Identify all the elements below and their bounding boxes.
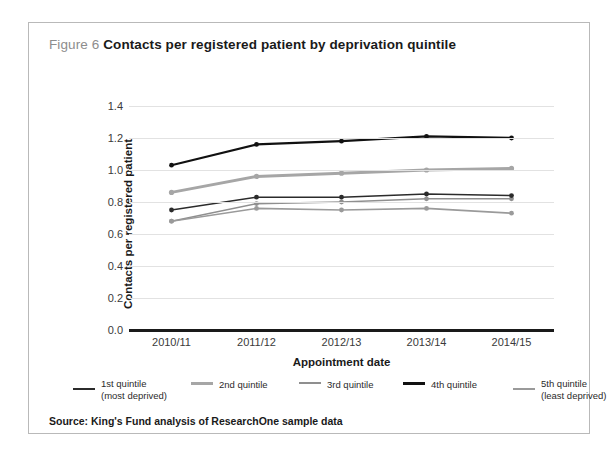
gridline (129, 266, 554, 267)
data-point (424, 206, 429, 211)
legend-swatch-icon (73, 388, 95, 390)
y-axis-title-wrapper: Contacts per registered patient (75, 106, 91, 330)
legend-label: 3rd quintile (327, 379, 373, 390)
data-point (169, 190, 174, 195)
data-point (339, 171, 344, 176)
legend-swatch-icon (513, 388, 535, 390)
legend-label-block: 5th quintile(least deprived) (541, 378, 606, 401)
chart-legend: 1st quintile(most deprived)2nd quintile3… (73, 378, 593, 412)
x-axis-tick-label: 2011/12 (212, 336, 302, 348)
data-point (254, 206, 259, 211)
figure-card: Figure 6 Contacts per registered patient… (28, 22, 590, 434)
legend-sublabel: (most deprived) (101, 390, 167, 402)
legend-swatch-icon (403, 382, 425, 385)
data-point (169, 219, 174, 224)
legend-item[interactable]: 3rd quintile (299, 378, 373, 390)
data-point (424, 196, 429, 201)
legend-item[interactable]: 4th quintile (403, 378, 477, 390)
data-point (509, 193, 514, 198)
data-point (339, 139, 344, 144)
data-point (254, 174, 259, 179)
legend-label: 2nd quintile (219, 379, 268, 390)
legend-item[interactable]: 2nd quintile (191, 378, 268, 390)
data-point (254, 195, 259, 200)
gridline (129, 234, 554, 235)
legend-label-block: 3rd quintile (327, 379, 373, 391)
line-chart-svg (129, 106, 554, 330)
legend-label: 4th quintile (431, 379, 477, 390)
gridline (129, 202, 554, 203)
legend-label: 1st quintile (101, 378, 146, 389)
x-axis-tick-label: 2014/15 (467, 336, 557, 348)
x-axis-tick-label: 2013/14 (382, 336, 472, 348)
x-axis-tick-label: 2010/11 (127, 336, 217, 348)
legend-item[interactable]: 1st quintile(most deprived) (73, 378, 167, 401)
legend-label-block: 1st quintile(most deprived) (101, 378, 167, 401)
data-point (339, 208, 344, 213)
source-note: Source: King's Fund analysis of Research… (49, 415, 343, 427)
legend-label: 5th quintile (541, 378, 587, 389)
legend-swatch-icon (299, 382, 321, 384)
data-point (169, 163, 174, 168)
x-axis-line (129, 329, 554, 332)
legend-label-block: 2nd quintile (219, 379, 268, 391)
figure-title-text: Contacts per registered patient by depri… (103, 37, 456, 52)
gridline (129, 170, 554, 171)
legend-sublabel: (least deprived) (541, 390, 606, 402)
legend-label-block: 4th quintile (431, 379, 477, 391)
data-point (169, 208, 174, 213)
plot-area (129, 106, 554, 330)
data-point (509, 211, 514, 216)
gridline (129, 106, 554, 107)
x-axis-title: Appointment date (129, 356, 554, 368)
data-point (424, 192, 429, 197)
gridline (129, 138, 554, 139)
x-axis-tick-label: 2012/13 (297, 336, 387, 348)
legend-item[interactable]: 5th quintile(least deprived) (513, 378, 606, 401)
legend-swatch-icon (191, 382, 213, 385)
data-point (339, 195, 344, 200)
gridline (129, 298, 554, 299)
data-point (254, 142, 259, 147)
